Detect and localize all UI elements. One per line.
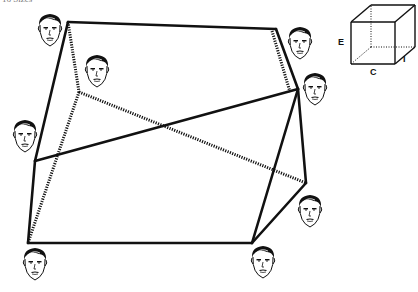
cube-of-faces-diagram: 16 Sizes <box>0 0 418 292</box>
cube-label-i: I <box>403 54 406 64</box>
face-inner-upper-portrait-icon <box>82 52 112 90</box>
solid-edge-AB <box>68 22 276 29</box>
face-bottom-right-portrait-icon <box>248 243 278 281</box>
solid-edge-ED <box>35 89 298 161</box>
solid-edge-EG <box>28 161 35 243</box>
dotted-edge-AC <box>68 22 79 92</box>
cube-label-c: C <box>370 67 377 77</box>
diagram-edges <box>28 22 306 243</box>
face-right-middle-portrait-icon <box>300 70 330 108</box>
solid-edge-HD <box>252 89 298 243</box>
cube-hidden-edge <box>351 47 371 64</box>
cube-label-e: E <box>338 37 344 47</box>
cube-edge <box>395 5 415 22</box>
face-top-left-portrait-icon <box>35 11 65 49</box>
face-lower-right-portrait-icon <box>295 192 325 230</box>
dotted-edge-CF <box>79 92 306 183</box>
cube-edge <box>351 5 371 22</box>
face-top-right-portrait-icon <box>285 24 315 62</box>
face-left-middle-portrait-icon <box>10 117 40 155</box>
face-bottom-left-portrait-icon <box>20 245 50 283</box>
